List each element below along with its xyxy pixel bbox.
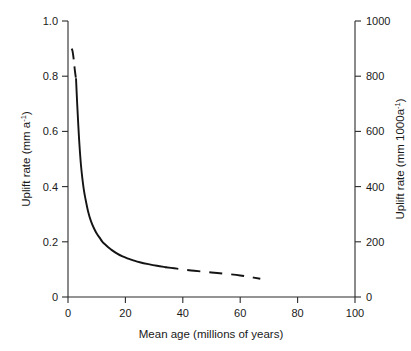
right-axis-title-main: Uplift rate (mm 1000a [394, 108, 406, 219]
chart-svg: 1.0 0.8 0.6 0.4 0.2 0 Uplift rate (mm a-… [0, 0, 411, 351]
x-ticklabel-100: 100 [346, 307, 364, 319]
left-ticklabel-0: 0 [52, 291, 58, 303]
x-ticklabel-20: 20 [119, 307, 131, 319]
x-ticklabel-60: 60 [234, 307, 246, 319]
left-axis-title-tail: ) [20, 111, 32, 115]
right-ticklabel-400: 400 [366, 181, 384, 193]
left-axis-title-group: Uplift rate (mm a-1) [19, 111, 32, 207]
right-axis-title-superscript: -1 [393, 102, 402, 109]
right-ticklabel-200: 200 [366, 236, 384, 248]
uplift-rate-vs-mean-age-chart: 1.0 0.8 0.6 0.4 0.2 0 Uplift rate (mm a-… [0, 0, 411, 351]
right-ticklabel-600: 600 [366, 125, 384, 137]
right-axis-title-tail: ) [394, 98, 406, 102]
x-ticklabel-40: 40 [177, 307, 189, 319]
left-axis-title-main: Uplift rate (mm a [20, 121, 32, 207]
x-axis-title: Mean age (millions of years) [139, 328, 284, 340]
left-ticklabel-1.0: 1.0 [43, 15, 58, 27]
left-axis-title-superscript: -1 [19, 115, 28, 122]
left-axis-title: Uplift rate (mm a-1) [19, 111, 32, 207]
left-ticklabel-0.6: 0.6 [43, 125, 58, 137]
right-axis-title: Uplift rate (mm 1000a-1) [393, 98, 406, 219]
left-ticklabel-0.8: 0.8 [43, 70, 58, 82]
chart-background [0, 0, 411, 351]
right-ticklabel-1000: 1000 [366, 15, 390, 27]
right-ticklabel-800: 800 [366, 70, 384, 82]
left-ticklabel-0.2: 0.2 [43, 236, 58, 248]
right-ticklabel-0: 0 [366, 291, 372, 303]
left-ticklabel-0.4: 0.4 [43, 181, 58, 193]
right-axis-title-group: Uplift rate (mm 1000a-1) [393, 98, 406, 219]
x-ticklabel-80: 80 [291, 307, 303, 319]
x-ticklabel-0: 0 [65, 307, 71, 319]
